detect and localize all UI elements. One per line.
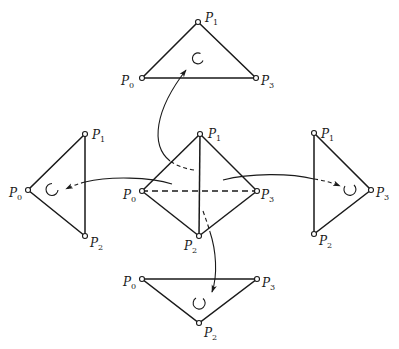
- label-p2: P2: [89, 236, 103, 252]
- vertex-p3: [369, 188, 374, 193]
- label-p2: P2: [203, 326, 217, 342]
- unfold-arrows: [66, 70, 340, 292]
- face-right-outline: [314, 133, 371, 234]
- label-p1: P1: [207, 127, 221, 143]
- edge-p1-p3: [200, 134, 257, 191]
- vertex-p2: [197, 234, 202, 239]
- unfold-arrow-left: [85, 178, 172, 184]
- center-tetrahedron: P1 P0 P3 P2: [122, 127, 274, 255]
- edge-p1-p2: [199, 134, 200, 236]
- vertex-p0: [140, 277, 145, 282]
- edge-p0-p2: [142, 191, 199, 236]
- vertex-p1: [198, 132, 203, 137]
- face-top-outline: [142, 22, 256, 78]
- face-right: P1 P3 P2: [312, 127, 390, 250]
- label-p1: P1: [91, 128, 105, 144]
- face-left: P1 P0 P2: [8, 128, 105, 252]
- label-p0: P0: [122, 275, 136, 291]
- vertex-p1: [196, 20, 201, 25]
- vertex-p2: [83, 234, 88, 239]
- face-top: P1 P0 P3: [120, 11, 274, 90]
- unfold-arrow-left-hidden: [66, 182, 85, 189]
- clockwise-rotation-icon: [46, 184, 58, 196]
- counterclockwise-rotation-icon: [193, 298, 205, 309]
- vertex-p0: [140, 189, 145, 194]
- vertex-p3: [254, 76, 259, 81]
- face-bottom: P0 P3 P2: [122, 275, 275, 342]
- label-p2: P2: [318, 234, 332, 250]
- edge-p1-p0: [142, 134, 200, 191]
- edge-p3-p2: [199, 191, 257, 236]
- counterclockwise-rotation-icon: [192, 53, 203, 64]
- unfold-arrow-right: [223, 175, 314, 180]
- vertex-p3: [255, 189, 260, 194]
- label-p1: P1: [204, 11, 218, 27]
- label-p0: P0: [122, 188, 136, 204]
- label-p2: P2: [183, 239, 197, 255]
- tetrahedron-face-orientation-diagram: P1 P0 P3 P2 P1 P0 P3 P1 P0 P2 P1 P3 P2: [0, 0, 399, 349]
- vertex-p3: [255, 277, 260, 282]
- label-p0: P0: [8, 186, 22, 202]
- unfold-arrow-right-hidden: [314, 179, 340, 186]
- vertex-p0: [140, 76, 145, 81]
- face-bottom-outline: [142, 279, 257, 323]
- vertex-p1: [312, 131, 317, 136]
- unfold-arrow-top: [158, 70, 186, 161]
- vertex-p0: [26, 188, 31, 193]
- label-p3: P3: [261, 276, 275, 292]
- label-p0: P0: [120, 74, 134, 90]
- vertex-p2: [312, 232, 317, 237]
- label-p3: P3: [260, 188, 274, 204]
- vertex-p1: [83, 132, 88, 137]
- label-p1: P1: [320, 127, 334, 143]
- label-p3: P3: [375, 186, 389, 202]
- clockwise-rotation-icon: [344, 185, 356, 195]
- unfold-arrow-bottom: [210, 232, 216, 292]
- unfold-arrow-top-hidden: [170, 161, 194, 170]
- vertex-p2: [197, 321, 202, 326]
- label-p3: P3: [260, 74, 274, 90]
